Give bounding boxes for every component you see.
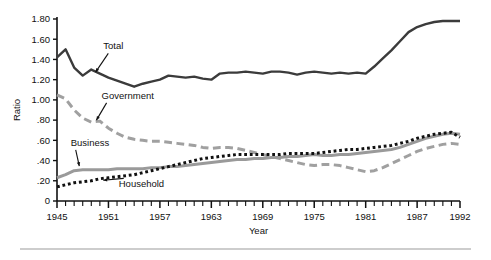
y-tick-label-1: .20 [37,175,50,186]
y-tick-label-4: .80 [37,114,50,125]
y-axis-title: Ratio [11,99,22,121]
y-tick-label-0: 0 [45,195,50,206]
series-annotation-household: Household [119,178,164,189]
x-tick-label-0: 1945 [46,211,67,222]
y-tick-label-5: 1.00 [32,94,51,105]
y-tick-label-8: 1.60 [32,34,51,45]
series-line-government [57,95,460,172]
x-tick-label-3: 1963 [201,211,222,222]
x-tick-label-6: 1981 [355,211,376,222]
series-annotation-business: Business [71,137,110,148]
x-tick-label-5: 1975 [304,211,325,222]
y-tick-label-6: 1.20 [32,74,51,85]
series-annotation-total: Total [103,40,123,51]
y-tick-label-3: .60 [37,135,50,146]
x-tick-label-7: 1987 [407,211,428,222]
chart-figure: 0.20.40.60.801.001.201.401.601.801945195… [0,0,491,260]
x-tick-label-8: 1992 [449,211,470,222]
y-tick-label-9: 1.80 [32,13,51,24]
x-tick-label-2: 1957 [149,211,170,222]
y-tick-label-7: 1.40 [32,54,51,65]
x-tick-label-4: 1969 [252,211,273,222]
series-line-total [57,21,460,87]
series-line-business [57,133,460,177]
y-tick-label-2: .40 [37,155,50,166]
x-tick-label-1: 1951 [98,211,119,222]
line-chart-svg: 0.20.40.60.801.001.201.401.601.801945195… [0,0,491,260]
x-axis-title: Year [249,225,268,236]
series-annotation-government: Government [102,90,155,101]
